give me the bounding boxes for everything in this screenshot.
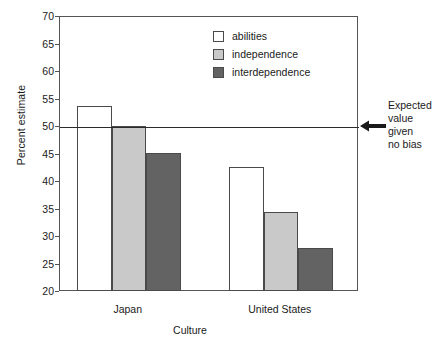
bar-united-states-abilities bbox=[229, 167, 264, 291]
expected-value-reference-line bbox=[60, 127, 359, 128]
bar-united-states-independence bbox=[264, 212, 299, 291]
y-tick-label: 60 bbox=[24, 66, 54, 77]
legend-label-abilities: abilities bbox=[232, 31, 267, 42]
expected-value-annotation-line-2: value bbox=[388, 112, 413, 125]
legend-label-independence: independence bbox=[232, 49, 298, 60]
y-tick-label: 50 bbox=[24, 121, 54, 132]
legend-swatch-icon-interdependence bbox=[213, 67, 224, 78]
y-tick-label: 40 bbox=[24, 176, 54, 187]
x-group-label-japan: Japan bbox=[68, 303, 188, 315]
x-group-label-united-states: United States bbox=[220, 303, 340, 315]
chart-legend: abilities independence interdependence bbox=[213, 27, 310, 81]
expected-value-annotation-line-1: Expected bbox=[388, 99, 432, 112]
legend-item-independence: independence bbox=[213, 45, 310, 63]
expected-value-annotation-line-4: no bias bbox=[388, 138, 422, 151]
y-tick-mark bbox=[55, 291, 59, 292]
y-tick-label: 65 bbox=[24, 39, 54, 50]
y-tick-label: 30 bbox=[24, 231, 54, 242]
y-tick-label: 55 bbox=[24, 94, 54, 105]
y-tick-label: 35 bbox=[24, 204, 54, 215]
legend-label-interdependence: interdependence bbox=[232, 67, 310, 78]
bar-japan-abilities bbox=[77, 106, 112, 291]
y-tick-label: 20 bbox=[24, 286, 54, 297]
legend-swatch-icon-abilities bbox=[213, 31, 224, 42]
plot-area bbox=[59, 16, 358, 291]
legend-swatch-icon-independence bbox=[213, 49, 224, 60]
bar-japan-interdependence bbox=[146, 153, 181, 291]
x-axis-title: Culture bbox=[0, 324, 380, 336]
left-arrow-icon bbox=[360, 119, 386, 133]
bar-united-states-interdependence bbox=[298, 248, 333, 291]
y-tick-label: 70 bbox=[24, 11, 54, 22]
bar-japan-independence bbox=[112, 126, 147, 291]
legend-item-interdependence: interdependence bbox=[213, 63, 310, 81]
expected-value-annotation-line-3: given bbox=[388, 125, 413, 138]
y-tick-label: 25 bbox=[24, 259, 54, 270]
bar-chart: Percent estimate 2025303540455055606570 … bbox=[0, 0, 443, 350]
y-tick-label: 45 bbox=[24, 149, 54, 160]
legend-item-abilities: abilities bbox=[213, 27, 310, 45]
